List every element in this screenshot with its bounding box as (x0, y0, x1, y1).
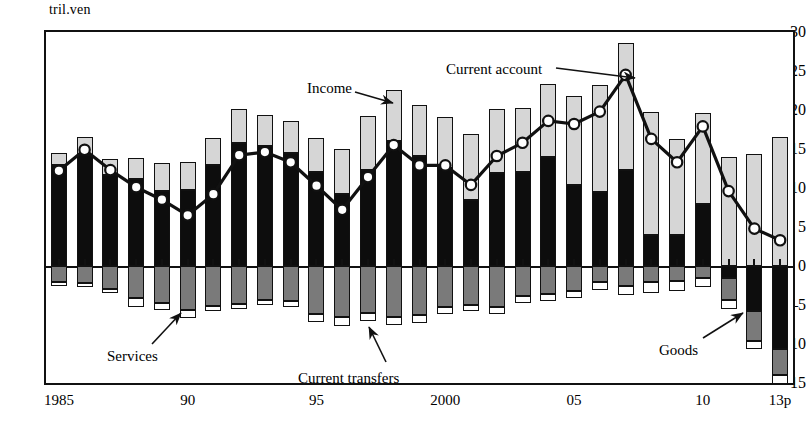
y-axis-unit-label: tril.ven (49, 2, 91, 18)
bar-segment-services (360, 266, 376, 313)
bar-segment-services (489, 266, 505, 307)
bar-segment-income (386, 90, 402, 141)
bar-segment-services (308, 266, 324, 314)
bar-segment-services (669, 266, 685, 281)
bar-segment-income (772, 137, 788, 266)
bar-segment-current-transfers (386, 317, 402, 325)
x-tick-mark (238, 259, 240, 266)
bar-segment-services (463, 266, 479, 305)
bar-segment-income (128, 158, 144, 179)
bar-segment-goods (386, 141, 402, 266)
bar-segment-income (437, 117, 453, 168)
bar-segment-income (180, 162, 196, 190)
bar-segment-goods (102, 175, 118, 266)
bar-segment-current-transfers (231, 304, 247, 309)
bar-segment-income (540, 84, 556, 157)
bar-segment-current-transfers (180, 310, 196, 319)
x-tick-mark (290, 259, 292, 266)
bar-segment-services (695, 266, 711, 278)
bar-segment-income (154, 163, 170, 191)
bar-segment-current-transfers (334, 317, 350, 326)
annotation-label: Income (307, 80, 352, 97)
bar-segment-current-transfers (643, 282, 659, 292)
bar-segment-current-transfers (128, 298, 144, 307)
bar-segment-income (618, 43, 634, 170)
x-tick-mark (753, 259, 755, 266)
bar-segment-services (128, 266, 144, 298)
bar-segment-current-transfers (618, 286, 634, 295)
bar-segment-services (386, 266, 402, 317)
bar-segment-income (334, 149, 350, 194)
bar-segment-income (360, 116, 376, 170)
bar-segment-income (592, 85, 608, 192)
x-tick-mark (135, 259, 137, 266)
x-tick-mark (547, 259, 549, 266)
bar-segment-goods (437, 168, 453, 266)
x-tick-mark (58, 259, 60, 266)
bar-segment-goods (257, 146, 273, 266)
bar-segment-goods (489, 173, 505, 266)
bar-segment-services (334, 266, 350, 317)
x-tick-mark (187, 259, 189, 266)
x-tick-mark (161, 259, 163, 266)
bar-segment-income (77, 137, 93, 156)
x-tick-label: 95 (309, 392, 324, 409)
x-tick-mark (470, 259, 472, 266)
bar-segment-income (257, 115, 273, 146)
bar-segment-goods (77, 155, 93, 266)
annotation-label: Goods (659, 342, 698, 359)
bar-segment-services (437, 266, 453, 307)
bar-segment-current-transfers (695, 278, 711, 287)
x-tick-mark (496, 259, 498, 266)
x-tick-label: 05 (567, 392, 582, 409)
bar-segment-services (412, 266, 428, 315)
bar-segment-services (618, 266, 634, 286)
bar-segment-services (77, 266, 93, 283)
bar-segment-current-transfers (257, 300, 273, 305)
x-tick-label: 13p (769, 392, 792, 409)
x-tick-mark (393, 259, 395, 266)
x-tick-mark (212, 259, 214, 266)
bar-segment-income (205, 138, 221, 165)
x-tick-label: 1985 (44, 392, 74, 409)
x-tick-mark (341, 259, 343, 266)
bar-segment-services (205, 266, 221, 306)
bar-segment-goods (231, 143, 247, 266)
bar-segment-goods (154, 191, 170, 266)
x-tick-mark (84, 259, 86, 266)
x-tick-mark (599, 259, 601, 266)
bar-segment-goods (515, 172, 531, 266)
bar-segment-goods (695, 204, 711, 266)
plot-area (44, 30, 795, 385)
x-tick-mark (315, 259, 317, 266)
bar-segment-current-transfers (308, 314, 324, 322)
x-tick-label: 10 (695, 392, 710, 409)
bar-segment-current-transfers (154, 303, 170, 311)
x-tick-mark (444, 259, 446, 266)
bar-segment-services (540, 266, 556, 294)
bar-segment-services (746, 311, 762, 341)
bar-segment-services (721, 278, 737, 300)
bar-segment-current-transfers (746, 341, 762, 350)
bar-segment-income (231, 109, 247, 143)
bar-segment-income (102, 159, 118, 175)
bar-segment-goods (592, 192, 608, 266)
bar-segment-current-transfers (540, 294, 556, 301)
bar-segment-services (154, 266, 170, 303)
bar-segment-income (669, 139, 685, 235)
bar-segment-goods (128, 179, 144, 266)
bar-segment-income (51, 153, 67, 165)
bar-segment-current-transfers (205, 306, 221, 311)
x-tick-mark (109, 259, 111, 266)
x-tick-mark (676, 259, 678, 266)
x-tick-label: 2000 (430, 392, 460, 409)
bar-segment-current-transfers (772, 375, 788, 384)
bar-segment-services (283, 266, 299, 301)
bar-segment-current-transfers (77, 283, 93, 287)
bar-segment-income (643, 112, 659, 235)
bar-segment-current-transfers (592, 282, 608, 290)
bar-segment-services (772, 349, 788, 376)
bar-segment-current-transfers (51, 282, 67, 286)
x-tick-mark (779, 259, 781, 266)
bar-segment-current-transfers (515, 296, 531, 302)
